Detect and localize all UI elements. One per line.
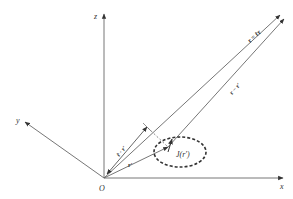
y-axis bbox=[25, 122, 104, 178]
rprime-label: r′ bbox=[128, 162, 133, 168]
vector-diagram: z y x O r = r̂r r − r′ r′ r̂ · r′ J(r′) bbox=[0, 0, 293, 199]
origin-label: O bbox=[99, 184, 105, 193]
x-axis-label: x bbox=[279, 182, 284, 191]
y-axis-label: y bbox=[15, 116, 20, 125]
r-minus-rprime-label: r − r′ bbox=[228, 82, 242, 96]
perpendicular-dashed bbox=[148, 128, 168, 147]
rprime-vector bbox=[104, 147, 168, 178]
projection-label: r̂ · r′ bbox=[115, 144, 127, 157]
r-vector-label: r = r̂r bbox=[246, 28, 262, 44]
source-label: J(r′) bbox=[176, 150, 190, 159]
r-minus-rprime-vector bbox=[168, 19, 284, 147]
z-axis-label: z bbox=[93, 12, 98, 21]
current-density-arrow bbox=[168, 139, 172, 152]
